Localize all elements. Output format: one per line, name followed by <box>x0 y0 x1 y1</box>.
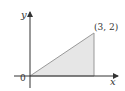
shaded-triangle-region <box>30 33 94 76</box>
origin-label: 0 <box>20 73 26 83</box>
x-axis-label: x <box>110 76 116 87</box>
point-label: (3, 2) <box>94 22 118 32</box>
y-axis-label: y <box>20 9 27 20</box>
coordinate-diagram: y x 0 (3, 2) <box>0 0 125 91</box>
